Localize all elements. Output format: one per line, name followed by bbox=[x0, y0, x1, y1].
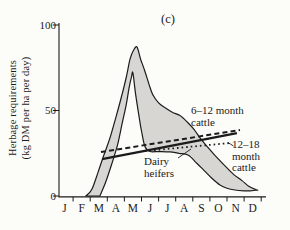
y-tick-label: 50 bbox=[34, 104, 56, 116]
annotation-12-18-month-cattle: 12–18 month cattle bbox=[232, 139, 260, 174]
x-tick-label-month: J bbox=[142, 202, 158, 214]
x-tick-label-month: A bbox=[108, 202, 124, 214]
x-tick-label-month: D bbox=[245, 202, 261, 214]
x-tick-label-month: S bbox=[193, 202, 209, 214]
annotation-6-12-month-cattle: 6–12 month cattle bbox=[191, 105, 244, 128]
panel-label: (c) bbox=[161, 12, 175, 27]
x-tick-label-month: J bbox=[57, 202, 73, 214]
annotation-dairy-heifers: Dairy heifers bbox=[144, 156, 174, 179]
y-axis-label: Herbage requirements (kg DM per ha per d… bbox=[7, 18, 35, 198]
x-tick-label-month: A bbox=[176, 202, 192, 214]
x-tick-label-month: N bbox=[228, 202, 244, 214]
y-tick-label: 0 bbox=[34, 190, 56, 202]
x-tick-label-month: J bbox=[159, 202, 175, 214]
x-tick-label-month: O bbox=[210, 202, 226, 214]
x-tick-label-month: M bbox=[125, 202, 141, 214]
chart-panel: (c) Herbage requirements (kg DM per ha p… bbox=[0, 0, 290, 230]
y-tick-label: 100 bbox=[34, 19, 56, 31]
x-tick-label-month: M bbox=[91, 202, 107, 214]
x-tick-label-month: F bbox=[74, 202, 90, 214]
